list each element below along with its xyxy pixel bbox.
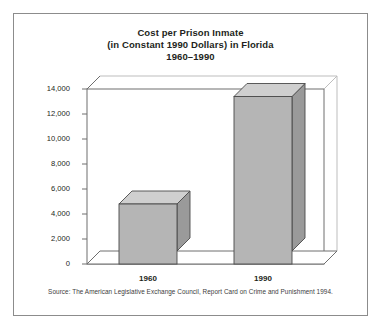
- y-axis-label-4000: 4,000: [26, 210, 70, 218]
- source-note: Source: The American Legislative Exchang…: [14, 288, 367, 295]
- x-axis-tick-labels: 19601990: [14, 274, 367, 288]
- bar-1990-top: [234, 84, 305, 97]
- bar-1990-side: [292, 84, 305, 252]
- chart-title-line-2: (in Constant 1990 Dollars) in Florida: [14, 39, 367, 51]
- bar-1990[interactable]: [234, 84, 305, 265]
- chart-figure: Cost per Prison Inmate (in Constant 1990…: [13, 13, 368, 316]
- x-axis-label-1990: 1990: [233, 274, 293, 283]
- y-axis-label-14000: 14,000: [26, 85, 70, 93]
- y-axis-label-12000: 12,000: [26, 110, 70, 118]
- chart-canvas: [72, 74, 347, 279]
- y-axis-label-2000: 2,000: [26, 235, 70, 243]
- chart-title-line-1: Cost per Prison Inmate: [14, 27, 367, 39]
- chart-title: Cost per Prison Inmate (in Constant 1990…: [14, 27, 367, 64]
- plot-area: [72, 74, 347, 279]
- bar-1960-top: [119, 191, 190, 204]
- y-axis-ticks: [82, 89, 87, 264]
- y-axis-tick-labels: 14,00012,00010,0008,0006,0004,0002,0000: [14, 74, 70, 279]
- y-axis-label-10000: 10,000: [26, 135, 70, 143]
- depth-edge-top-left: [87, 76, 100, 89]
- x-axis-label-1960: 1960: [118, 274, 178, 283]
- bar-1960-front: [119, 204, 177, 264]
- depth-edge-top-right: [324, 76, 337, 89]
- chart-title-line-3: 1960–1990: [14, 51, 367, 63]
- y-axis-label-6000: 6,000: [26, 185, 70, 193]
- y-axis-label-8000: 8,000: [26, 160, 70, 168]
- y-axis-label-0: 0: [26, 260, 70, 268]
- bar-1990-front: [234, 97, 292, 265]
